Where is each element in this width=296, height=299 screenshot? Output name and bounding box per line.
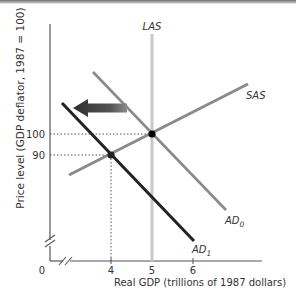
x-tick-label-4: 4 bbox=[108, 265, 114, 276]
y-axis-label: Price level (GDP deflator, 1987 = 100) bbox=[14, 7, 26, 208]
equilibrium-point-new bbox=[107, 151, 114, 158]
equilibrium-point-initial bbox=[148, 130, 155, 137]
x-tick-label-5: 5 bbox=[149, 265, 155, 276]
ad-as-chart: Price level (GDP deflator, 1987 = 100) bbox=[0, 0, 296, 299]
las-label: LAS bbox=[143, 21, 162, 32]
y-tick-label-90: 90 bbox=[32, 150, 45, 161]
left-shift-arrow-icon bbox=[73, 99, 127, 117]
sas-curve bbox=[69, 84, 248, 175]
sas-label: SAS bbox=[246, 90, 266, 101]
ad0-curve bbox=[93, 72, 226, 210]
y-tick-label-100: 100 bbox=[26, 129, 45, 140]
guide-lines bbox=[50, 134, 152, 261]
x-tick-label-6: 6 bbox=[190, 265, 196, 276]
ad0-label: AD0 bbox=[224, 215, 245, 229]
x-axis-label: Real GDP (trillions of 1987 dollars) bbox=[114, 277, 286, 288]
ad1-curve bbox=[62, 103, 194, 241]
origin-label: 0 bbox=[39, 265, 45, 276]
ad1-label: AD1 bbox=[191, 244, 211, 258]
